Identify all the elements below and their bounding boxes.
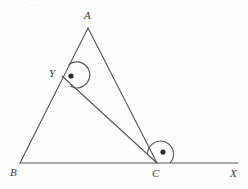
vertex-label-B: B	[10, 167, 17, 178]
segment-cevian-YC	[62, 76, 157, 163]
angle-dot-AYC	[68, 73, 73, 78]
scan-artifact	[25, 0, 41, 6]
geometry-figure: A B C X Y	[0, 0, 248, 189]
geometry-canvas	[0, 0, 248, 189]
vertex-label-X: X	[230, 168, 237, 179]
segment-side-AC	[88, 28, 157, 163]
vertex-label-C: C	[152, 168, 159, 179]
angle-dot-YCX	[160, 149, 165, 154]
segment-side-AB	[20, 28, 88, 163]
vertex-label-A: A	[84, 10, 91, 21]
vertex-label-Y: Y	[49, 68, 55, 79]
